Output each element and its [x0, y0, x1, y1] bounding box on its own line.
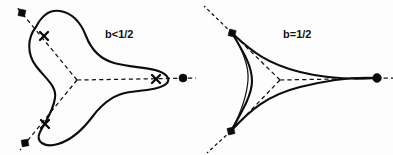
left-upper-left-square-dot	[18, 9, 26, 17]
left-ray-upper-left	[16, 6, 77, 80]
right-cusp-dot	[373, 74, 382, 83]
caption-b-less-than-half: b<1/2	[105, 28, 133, 40]
right-extension-lower-left	[207, 131, 231, 153]
right-upper-left-cusp-dot	[228, 29, 236, 37]
left-right-round-dot	[179, 74, 187, 82]
left-ray-right	[77, 78, 196, 80]
right-ray-right	[280, 78, 393, 80]
right-extension-lines	[204, 6, 232, 153]
right-ray-lower-left	[231, 80, 280, 131]
right-ray-upper-left	[232, 33, 280, 80]
right-axis-rays	[231, 33, 393, 131]
left-trefoil-curve	[29, 11, 168, 146]
panel-left-b-less-than-half	[0, 0, 196, 155]
left-lower-left-square-dot	[21, 139, 29, 147]
right-deltoid-curve	[231, 33, 377, 131]
right-inner-arc	[232, 34, 248, 130]
caption-b-equals-half: b=1/2	[283, 28, 311, 40]
figure-root: b<1/2 b=1/2	[0, 0, 393, 155]
right-extension-upper-left	[204, 6, 232, 33]
right-lower-left-cusp-dot	[227, 127, 235, 135]
left-x-marker-upper-left	[40, 32, 48, 40]
